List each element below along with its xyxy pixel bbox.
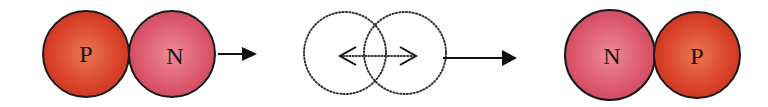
neutron-particle: N [129,11,215,97]
proton-label: P [690,43,703,69]
arrow-1 [218,47,257,61]
dotted-circle-right [364,12,446,94]
neutron-label: N [166,43,183,69]
proton-particle: P [43,11,129,97]
final-pair: N P [565,10,740,100]
arrow-2 [443,50,517,66]
arrowhead-icon [242,47,257,61]
neutron-label: N [603,43,620,69]
neutron-particle: N [565,10,655,100]
exchange-stage [304,12,446,94]
proton-particle: P [654,12,740,98]
nucleon-exchange-diagram: P N N P [0,0,768,107]
initial-pair: P N [43,11,215,97]
arrowhead-icon [502,50,517,66]
proton-label: P [79,41,92,67]
